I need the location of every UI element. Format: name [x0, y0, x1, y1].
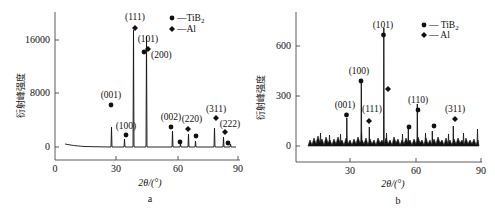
- peak-label-220: (220): [182, 114, 203, 125]
- ytick-16000: 16000: [25, 34, 50, 45]
- peak-label-001-b: (001): [335, 100, 356, 111]
- peak-label-200: (200): [151, 50, 172, 61]
- legend-al-a: —Al: [176, 24, 196, 34]
- tib2-marker-68: [194, 134, 199, 139]
- peak-label-101: (101): [138, 34, 159, 45]
- tib2-marker-57-b: [407, 125, 412, 130]
- y-axis-label-a: 衍射峰强度: [15, 73, 26, 118]
- xtick-60-b: 60: [411, 165, 421, 176]
- ytick-300-b: 300: [276, 90, 291, 101]
- peak-label-100-b: (100): [349, 66, 370, 77]
- legend-b: — TiB2 — Al: [421, 20, 459, 40]
- y-axis-label-b: 衍射峰强度: [255, 75, 266, 120]
- peak-label-100: (100): [116, 121, 137, 132]
- x-axis-label-a: 2θ/(°): [138, 177, 162, 189]
- tib2-marker-100: [124, 133, 129, 138]
- tib2-marker-110-b: [416, 108, 421, 113]
- xtick-90: 90: [233, 163, 243, 174]
- peak-label-111: (111): [125, 12, 145, 23]
- legend-diamond-icon-b: [421, 32, 427, 38]
- legend-al-b: — Al: [428, 30, 450, 40]
- ytick-0-b: 0: [286, 140, 291, 151]
- al-marker-220: [185, 126, 191, 132]
- peak-label-002: (002): [161, 112, 182, 123]
- ytick-0: 0: [45, 141, 50, 152]
- tib2-marker-61: [178, 140, 183, 145]
- al-marker-111-b: [366, 118, 372, 124]
- x-axis-label-b: 2θ/(°): [381, 178, 405, 190]
- al-marker-200-b: [385, 86, 391, 92]
- xtick-0: 0: [53, 163, 58, 174]
- tib2-marker-100-b: [359, 79, 364, 84]
- panel-caption-a: a: [148, 193, 153, 204]
- peak-label-311-b: (311): [445, 104, 465, 115]
- xtick-30-b: 30: [345, 165, 355, 176]
- tib2-marker-101: [142, 50, 147, 55]
- panel-b: 0 300 600 30 60 90 2θ/(°) 衍射峰强度 b (001) …: [255, 12, 486, 206]
- legend-circle-icon: [170, 16, 175, 21]
- tib2-marker-101-b: [381, 33, 386, 38]
- ytick-8000: 8000: [30, 87, 50, 98]
- xtick-60: 60: [173, 163, 183, 174]
- spectrum-peaks-b: [347, 28, 454, 146]
- spectrum-trace-a: [65, 30, 236, 147]
- tib2-marker-84: [226, 141, 231, 146]
- al-marker-311: [213, 115, 219, 121]
- peak-label-311: (311): [206, 104, 226, 115]
- xrd-figure: 0 8000 16000 0 30 60 90 2θ/(°) 衍射峰强度 a (…: [0, 0, 495, 215]
- panel-a: 0 8000 16000 0 30 60 90 2θ/(°) 衍射峰强度 a (…: [15, 12, 243, 204]
- xtick-90-b: 90: [476, 165, 486, 176]
- tib2-marker-68-b: [432, 124, 437, 129]
- peak-label-110-b: (110): [408, 95, 428, 106]
- peak-label-222: (222): [220, 119, 241, 130]
- peak-label-101-b: (101): [373, 20, 394, 31]
- al-marker-111: [132, 25, 138, 31]
- al-marker-311-b: [452, 116, 458, 122]
- legend-circle-icon-b: [422, 23, 427, 28]
- peak-label-001: (001): [101, 90, 122, 101]
- tib2-marker-002: [169, 125, 174, 130]
- al-marker-222: [222, 129, 228, 135]
- ytick-600-b: 600: [276, 40, 291, 51]
- legend-diamond-icon: [169, 26, 175, 32]
- legend-a: —TiB2 —Al: [169, 13, 205, 34]
- panel-caption-b: b: [396, 195, 401, 206]
- tib2-marker-001-b: [344, 113, 349, 118]
- tib2-marker-001: [109, 103, 114, 108]
- peak-label-111-b: (111): [362, 104, 382, 115]
- xtick-30: 30: [111, 163, 121, 174]
